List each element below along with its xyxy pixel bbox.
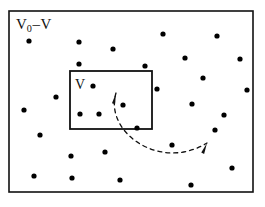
scatter-point: [53, 94, 58, 99]
scatter-point: [188, 182, 193, 187]
outer-label-second-symbol: V: [40, 16, 51, 32]
scatter-point: [169, 142, 174, 147]
scatter-point: [69, 175, 74, 180]
scatter-point: [76, 61, 81, 66]
scatter-point: [117, 177, 122, 182]
figure-container: V0–V V: [0, 0, 265, 207]
outer-region-label: V0–V: [16, 17, 51, 34]
scatter-point: [102, 149, 107, 154]
scatter-point: [160, 31, 165, 36]
scatter-point: [182, 55, 187, 60]
scatter-point: [154, 86, 159, 91]
scatter-point: [200, 75, 205, 80]
scatter-point: [134, 125, 139, 130]
scatter-point: [237, 56, 242, 61]
scatter-point: [76, 39, 81, 44]
scatter-point: [26, 38, 31, 43]
outer-label-symbol: V: [16, 16, 27, 32]
scatter-point: [96, 111, 101, 116]
scatter-point: [142, 63, 147, 68]
scatter-point: [90, 83, 95, 88]
scatter-point: [77, 111, 82, 116]
scatter-point: [189, 101, 194, 106]
scatter-point: [31, 173, 36, 178]
scatter-point: [37, 132, 42, 137]
scatter-point: [221, 112, 226, 117]
scatter-point: [212, 127, 217, 132]
scatter-point: [244, 87, 249, 92]
scatter-point: [68, 153, 73, 158]
scatter-point: [21, 107, 26, 112]
scatter-point: [214, 33, 219, 38]
scatter-point: [120, 102, 125, 107]
scatter-point: [229, 165, 234, 170]
scatter-point: [110, 46, 115, 51]
inner-region-label: V: [75, 78, 85, 92]
